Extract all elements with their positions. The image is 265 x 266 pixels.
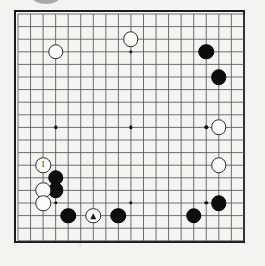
triangle-marker-icon xyxy=(90,213,96,219)
stone-b-bottom-right[interactable] xyxy=(186,208,202,224)
stone-b-top-right-upper[interactable] xyxy=(199,44,215,60)
black-stone[interactable] xyxy=(199,44,215,60)
stone-w-top-center[interactable] xyxy=(123,31,139,47)
go-board-container[interactable]: 1 xyxy=(14,10,245,243)
white-stone[interactable] xyxy=(211,157,227,173)
go-diagram-page: 1 xyxy=(0,0,265,266)
stone-w-top-left[interactable] xyxy=(48,44,64,60)
stone-w-left-low[interactable] xyxy=(35,195,51,211)
white-stone[interactable] xyxy=(211,120,227,136)
go-board[interactable]: 1 xyxy=(14,10,245,243)
stone-w-triangle[interactable] xyxy=(86,208,102,224)
stone-b-bottom-a[interactable] xyxy=(60,208,76,224)
stone-w-right-upper[interactable] xyxy=(211,120,227,136)
black-stone[interactable] xyxy=(186,208,202,224)
stone-b-top-right-lower[interactable] xyxy=(211,69,227,85)
stone-b-bottom-b[interactable] xyxy=(111,208,127,224)
stone-b-right-corner[interactable] xyxy=(211,195,227,211)
white-stone[interactable] xyxy=(35,195,51,211)
black-stone[interactable] xyxy=(60,208,76,224)
stone-w-right-lower[interactable] xyxy=(211,157,227,173)
white-stone[interactable] xyxy=(48,44,64,60)
black-stone[interactable] xyxy=(111,208,127,224)
white-stone[interactable] xyxy=(123,31,139,47)
black-stone[interactable] xyxy=(211,195,227,211)
scan-artifact-mark xyxy=(33,0,59,4)
black-stone[interactable] xyxy=(211,69,227,85)
